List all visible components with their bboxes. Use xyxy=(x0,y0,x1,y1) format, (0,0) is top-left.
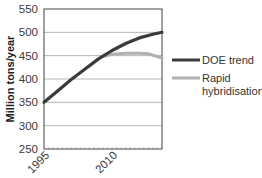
y-tick-label: 500 xyxy=(19,26,38,38)
legend: DOE trendRapidhybridisation xyxy=(172,54,262,97)
y-tick-label: 450 xyxy=(19,50,38,62)
line-chart: 250300350400450500550 19952010 Million t… xyxy=(0,0,262,178)
gridlines xyxy=(44,32,162,125)
series-line-doe-trend xyxy=(44,32,162,102)
x-axis-ticks: 19952010 xyxy=(25,147,162,176)
series-lines xyxy=(44,32,162,102)
legend-label: hybridisation xyxy=(202,85,262,97)
y-axis-ticks: 250300350400450500550 xyxy=(19,3,38,155)
y-tick-label: 250 xyxy=(19,143,38,155)
y-tick-label: 550 xyxy=(19,3,38,15)
x-tick-label: 2010 xyxy=(93,149,120,176)
y-axis-title: Million tons/year xyxy=(4,35,16,123)
y-tick-label: 400 xyxy=(19,73,38,85)
y-tick-label: 300 xyxy=(19,120,38,132)
legend-label: DOE trend xyxy=(202,54,254,66)
y-tick-label: 350 xyxy=(19,96,38,108)
legend-label: Rapid xyxy=(202,72,231,84)
